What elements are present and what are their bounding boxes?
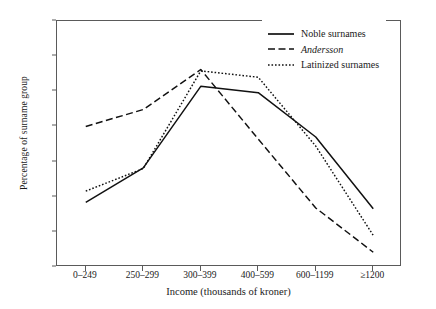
x-tick-mark [372,266,373,271]
series-line [86,71,374,235]
legend-label: Andersson [301,42,343,58]
y-tick-mark [52,230,56,231]
series-line [86,70,374,253]
x-tick-mark [200,266,201,271]
chart-figure: Percentage of surname group 051015202530… [0,0,436,309]
legend-item: Noble surnames [268,26,379,42]
y-tick-mark [52,195,56,196]
legend-label: Noble surnames [301,26,366,42]
legend-line-swatch [268,44,294,54]
y-tick-mark [52,55,56,56]
x-tick-label: 300–399 [183,270,216,280]
y-axis-title: Percentage of surname group [19,33,29,233]
legend-item: Latinized surnames [268,57,379,73]
y-tick-mark [52,125,56,126]
x-tick-mark [142,266,143,271]
x-tick-label: 0–249 [73,270,97,280]
x-tick-mark [85,266,86,271]
y-tick-mark [52,160,56,161]
x-tick-label: ≥1200 [360,270,384,280]
y-tick-mark [52,90,56,91]
legend-item: Andersson [268,42,379,58]
x-tick-mark [315,266,316,271]
legend-line-swatch [268,29,294,39]
x-tick-label: 250–299 [126,270,159,280]
series-line [86,86,374,208]
x-tick-label: 400–599 [241,270,274,280]
x-axis-title: Income (thousands of kroner) [56,286,401,297]
y-tick-mark [52,20,56,21]
x-tick-label: 600–1199 [296,270,334,280]
y-tick-mark [52,266,56,267]
x-tick-mark [257,266,258,271]
chart-legend: Noble surnamesAnderssonLatinized surname… [262,20,386,79]
legend-line-swatch [268,60,294,70]
legend-label: Latinized surnames [301,57,379,73]
